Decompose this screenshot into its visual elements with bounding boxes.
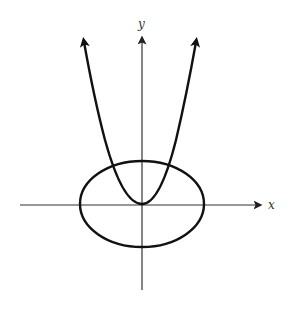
parabola-right-branch [142, 42, 196, 204]
x-axis: x [20, 198, 275, 212]
graph-figure: x y [0, 0, 296, 309]
x-axis-label: x [268, 198, 275, 212]
parabola-left-branch [84, 42, 142, 204]
y-axis-label: y [137, 17, 145, 31]
y-axis: y [137, 17, 145, 290]
